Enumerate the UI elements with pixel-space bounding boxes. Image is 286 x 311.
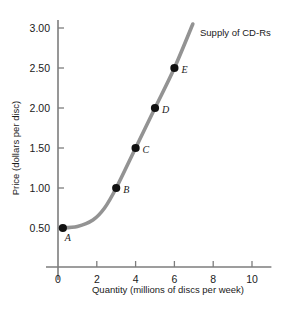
x-tick-label: 0	[55, 273, 61, 285]
data-point-c	[132, 144, 140, 152]
data-point-a	[59, 224, 67, 232]
x-tick-label: 10	[246, 273, 258, 285]
data-point-d	[151, 104, 159, 112]
data-point-label-c: C	[143, 144, 150, 155]
chart-canvas: 0.501.001.502.002.503.00 Price (dollars …	[0, 0, 286, 311]
y-tick-label: 1.00	[30, 182, 51, 194]
x-tick-group: 0246810	[55, 261, 258, 285]
supply-curve-group	[60, 24, 193, 228]
x-axis-title: Quantity (millions of discs per week)	[92, 284, 244, 295]
series-label: Supply of CD-Rs	[200, 27, 271, 38]
data-point-label-b: B	[123, 184, 129, 195]
supply-curve	[60, 24, 193, 228]
y-tick-label: 1.50	[30, 142, 51, 154]
data-point-label-a: A	[64, 232, 72, 243]
y-axis-title: Price (dollars per disc)	[10, 101, 21, 196]
data-point-label-d: D	[161, 104, 170, 115]
y-tick-label: 2.50	[30, 62, 51, 74]
y-tick-group: 0.501.001.502.002.503.00	[30, 22, 64, 234]
data-point-label-e: E	[180, 64, 187, 75]
x-axis-group: 0246810 Quantity (millions of discs per …	[46, 261, 271, 295]
y-tick-label: 3.00	[30, 22, 51, 34]
data-point-b	[112, 184, 120, 192]
data-point-group: ABCDE	[59, 64, 188, 243]
supply-curve-figure: 0.501.001.502.002.503.00 Price (dollars …	[0, 0, 286, 311]
y-axis-group: 0.501.001.502.002.503.00 Price (dollars …	[10, 20, 64, 280]
data-point-e	[170, 64, 178, 72]
y-tick-label: 2.00	[30, 102, 51, 114]
y-tick-label: 0.50	[30, 222, 51, 234]
